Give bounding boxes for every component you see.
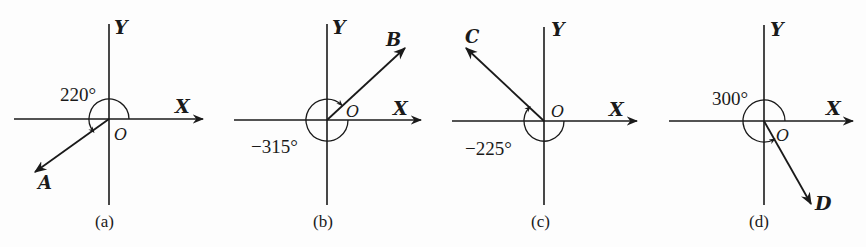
angle-label-c: −225° (465, 138, 512, 159)
panel-a: Y X O 220° A (a) (14, 16, 203, 231)
panel-d: Y X O 300° D (d) (669, 18, 853, 231)
angle-label-b: −315° (251, 136, 298, 157)
y-axis-label: Y (551, 18, 567, 40)
vector-label-b: B (385, 29, 401, 50)
x-axis-label: X (608, 98, 625, 120)
panel-c: Y X O −225° C (c) (452, 18, 637, 231)
origin-label: O (551, 102, 564, 121)
vector-label-d: D (814, 192, 832, 214)
caption-b: (b) (313, 212, 333, 231)
x-axis-label: X (174, 95, 191, 117)
vector-label-c: C (465, 26, 480, 47)
y-axis-label: Y (332, 16, 348, 38)
angle-label-a: 220° (60, 84, 96, 105)
caption-a: (a) (95, 212, 114, 231)
panel-b: Y X O −315° B (b) (234, 16, 421, 231)
origin-label: O (114, 125, 127, 144)
angle-label-d: 300° (712, 88, 748, 109)
origin-label: O (346, 102, 359, 121)
y-axis-label: Y (770, 18, 786, 40)
x-axis-label: X (392, 97, 409, 119)
caption-d: (d) (749, 212, 769, 231)
vector-a (35, 119, 109, 172)
x-axis-label: X (825, 97, 842, 119)
vector-label-a: A (36, 172, 52, 193)
y-axis-label: Y (114, 16, 130, 38)
caption-c: (c) (531, 212, 550, 231)
figure-vector-angles: Y X O 220° A (a) Y X O −315° B (b) Y X O… (0, 0, 866, 247)
vector-c (466, 48, 544, 121)
origin-label: O (776, 126, 789, 145)
